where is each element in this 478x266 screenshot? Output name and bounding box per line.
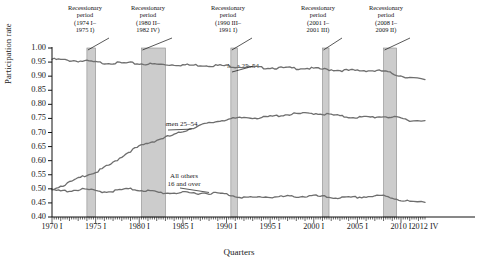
- recession-band-3: [322, 48, 329, 217]
- annotation-leader-2: [232, 38, 252, 50]
- participation-rate-chart: Participation rate Quarters 1.000.950.90…: [0, 0, 478, 266]
- series-line-2: [52, 188, 425, 202]
- annotation-leader-4: [385, 38, 410, 50]
- annotation-leader-0: [88, 38, 109, 50]
- plot-canvas: [0, 0, 478, 266]
- series-line-1: [52, 113, 425, 190]
- annotation-leader-3: [323, 38, 342, 50]
- recession-band-4: [384, 48, 397, 217]
- recession-band-0: [87, 48, 96, 217]
- axis-lines: [52, 47, 475, 217]
- series-line-0: [52, 58, 425, 79]
- recession-band-2: [231, 48, 238, 217]
